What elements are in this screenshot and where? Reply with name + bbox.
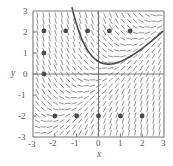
marked-point bbox=[42, 72, 47, 77]
y-tick-label-1: 1 bbox=[23, 49, 28, 58]
y-tick-label-minus-2: -2 bbox=[18, 112, 26, 121]
y-tick-label-2: 2 bbox=[23, 28, 28, 37]
marked-point bbox=[140, 114, 145, 119]
marked-point bbox=[63, 29, 68, 34]
marked-point bbox=[85, 29, 90, 34]
marked-point bbox=[128, 29, 133, 34]
marked-point bbox=[118, 114, 123, 119]
direction-field-figure: 3 2 1 0 -1 -2 -3 -3 -2 -1 0 1 2 3 y x bbox=[0, 0, 173, 166]
x-axis-label: x bbox=[97, 150, 101, 160]
marked-point bbox=[96, 114, 101, 119]
y-tick-label-minus-1: -1 bbox=[18, 91, 26, 100]
y-tick-label-minus-3: -3 bbox=[18, 133, 26, 142]
y-axis-label: y bbox=[11, 69, 15, 79]
marked-point bbox=[42, 29, 47, 34]
marked-point bbox=[52, 114, 57, 119]
x-tick-label-minus-3: -3 bbox=[28, 140, 36, 149]
x-tick-label-minus-1: -1 bbox=[71, 139, 79, 148]
marked-point bbox=[107, 29, 112, 34]
marked-point bbox=[74, 114, 79, 119]
x-tick-label-0: 0 bbox=[96, 139, 101, 148]
y-tick-label-0: 0 bbox=[23, 70, 28, 79]
y-tick-label-3: 3 bbox=[23, 7, 28, 16]
x-tick-label-1: 1 bbox=[118, 139, 123, 148]
x-tick-label-minus-2: -2 bbox=[49, 139, 57, 148]
x-tick-label-2: 2 bbox=[140, 139, 145, 148]
marked-point bbox=[42, 51, 47, 56]
x-tick-label-3: 3 bbox=[161, 139, 166, 148]
